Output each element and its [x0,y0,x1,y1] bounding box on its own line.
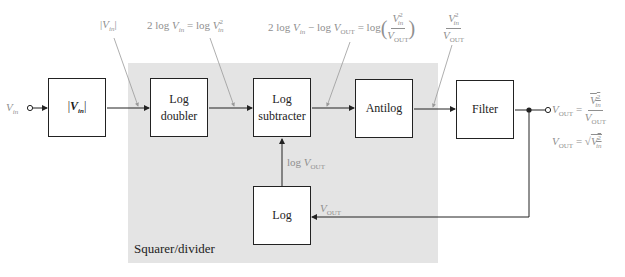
log-doubler-line2: doubler [161,109,198,123]
abs-output-annotation: |Vin| [100,18,117,33]
filter-label: Filter [472,101,498,117]
abs-value-block: |Vin| [48,78,106,137]
input-label: Vin [6,101,18,116]
filter-block: Filter [456,80,514,139]
log-subtracter-line2: subtracter [258,109,305,123]
abs-block-label: |Vin| [68,98,87,117]
log-label: Log [272,207,291,223]
doubler-output-annotation: 2 log Vin = log V2in [147,18,223,34]
log-doubler-line1: Log [169,92,188,106]
log-subtracter-block: Logsubtracter [253,78,311,137]
log-output-annotation: log VOUT [287,156,325,171]
output-equation-1: VOUT = V2inVOUT [552,94,606,127]
antilog-output-annotation: V2inVOUT [443,12,464,45]
antilog-block: Antilog [355,79,413,138]
log-block: Log [253,186,311,245]
subtracter-output-annotation: 2 log Vin − log VOUT = log(V2inVOUT) [268,12,415,45]
log-subtracter-line1: Log [272,92,291,106]
log-doubler-block: Logdoubler [150,78,208,137]
antilog-label: Antilog [366,100,403,116]
feedback-annotation: VOUT [320,202,341,217]
output-equation-2: VOUT = √V2in [552,134,602,150]
